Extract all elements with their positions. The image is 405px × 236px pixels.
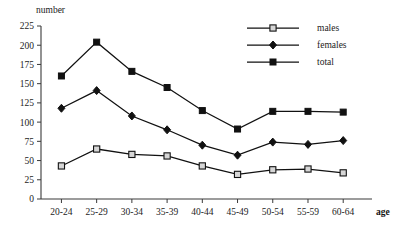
series-layer	[58, 39, 347, 177]
x-tick-label: 50-54	[262, 207, 284, 217]
legend-item-females: females	[247, 40, 347, 50]
x-tick-label: 35-39	[156, 207, 178, 217]
x-tick-label: 60-64	[332, 207, 354, 217]
data-point-females	[199, 141, 206, 149]
data-point-total	[235, 126, 241, 132]
data-point-males	[94, 146, 100, 152]
data-point-males	[129, 151, 135, 157]
series-females	[58, 87, 347, 160]
data-point-total	[340, 109, 346, 115]
data-point-total	[129, 68, 135, 74]
y-tick-label: 225	[20, 21, 35, 31]
x-axis-ticks: 20-2425-2930-3435-3940-4445-4950-5455-59…	[50, 199, 354, 217]
legend-item-total: total	[247, 57, 334, 67]
data-point-total	[305, 108, 311, 114]
data-point-total	[270, 108, 276, 114]
legend-marker-total	[270, 59, 276, 65]
y-tick-label: 50	[25, 156, 35, 166]
series-line-total	[61, 42, 343, 129]
y-tick-label: 75	[25, 137, 35, 147]
data-point-total	[199, 108, 205, 114]
data-point-total	[94, 39, 100, 45]
legend-label: females	[317, 40, 347, 50]
legend-marker-males	[270, 25, 276, 31]
x-tick-label: 20-24	[50, 207, 72, 217]
y-tick-label: 0	[29, 194, 34, 204]
x-tick-label: 55-59	[297, 207, 319, 217]
series-total	[58, 39, 346, 132]
data-point-total	[58, 73, 64, 79]
chart-legend: malesfemalestotal	[247, 23, 347, 67]
data-point-females	[93, 87, 100, 95]
data-point-males	[305, 166, 311, 172]
x-tick-label: 40-44	[191, 207, 213, 217]
data-point-females	[164, 126, 171, 134]
y-tick-label: 100	[20, 118, 35, 128]
data-point-males	[340, 170, 346, 176]
data-point-females	[304, 140, 311, 148]
y-tick-label: 175	[20, 60, 35, 70]
legend-label: total	[317, 57, 334, 67]
data-point-males	[199, 163, 205, 169]
chart-canvas: number age 0255075100125150175200225 20-…	[0, 0, 405, 236]
data-point-total	[164, 85, 170, 91]
data-point-males	[234, 171, 240, 177]
legend-marker-females	[270, 41, 277, 49]
y-tick-label: 25	[25, 175, 35, 185]
y-axis-ticks: 0255075100125150175200225	[20, 21, 41, 204]
data-point-females	[58, 104, 65, 112]
legend-item-males: males	[247, 23, 339, 33]
legend-label: males	[317, 23, 339, 33]
x-tick-label: 45-49	[226, 207, 248, 217]
y-tick-label: 200	[20, 41, 35, 51]
data-point-males	[164, 153, 170, 159]
series-males	[58, 146, 346, 178]
data-point-males	[270, 167, 276, 173]
line-chart: number age 0255075100125150175200225 20-…	[0, 0, 405, 236]
x-tick-label: 30-34	[121, 207, 143, 217]
y-axis-title: number	[36, 5, 66, 15]
series-line-males	[61, 149, 343, 174]
x-tick-label: 25-29	[86, 207, 108, 217]
data-point-females	[269, 138, 276, 146]
data-point-females	[340, 137, 347, 145]
data-point-females	[234, 151, 241, 159]
data-point-females	[128, 112, 135, 120]
x-axis-title: age	[376, 207, 390, 217]
data-point-males	[58, 163, 64, 169]
y-tick-label: 125	[20, 98, 35, 108]
y-tick-label: 150	[20, 79, 35, 89]
